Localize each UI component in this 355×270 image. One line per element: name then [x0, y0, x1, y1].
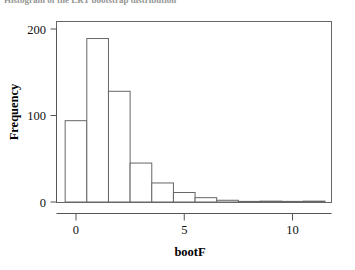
x-axis-ticks: 0510: [73, 214, 299, 238]
histogram-bar: [152, 183, 174, 202]
x-axis-tick-label: 10: [286, 223, 299, 237]
histogram-bar: [87, 39, 109, 202]
y-axis-tick-label: 100: [27, 109, 46, 123]
y-axis-ticks: 0100200: [27, 23, 56, 210]
histogram-bar: [130, 163, 152, 202]
x-axis-tick-label: 0: [73, 223, 79, 237]
y-axis-tick-label: 200: [27, 23, 46, 37]
histogram-bar: [260, 201, 282, 202]
y-axis-title: Frequency: [7, 83, 21, 140]
histogram-bar: [282, 201, 304, 202]
x-axis-title: bootF: [174, 245, 206, 259]
x-axis: 0510: [57, 214, 332, 238]
histogram-bar: [195, 198, 217, 202]
histogram-plot: 0100200 0510 bootF Frequency: [0, 0, 355, 270]
histogram-bar: [173, 192, 195, 202]
histogram-bar: [65, 121, 87, 202]
histogram-bar: [108, 91, 130, 202]
histogram-bar: [217, 200, 239, 202]
y-axis: 0100200: [27, 23, 56, 210]
histogram-bar: [303, 201, 325, 202]
histogram-bar: [238, 201, 260, 202]
histogram-figure: Histogram of the LRT bootstrap distribut…: [0, 0, 355, 270]
x-axis-tick-label: 5: [181, 223, 187, 237]
y-axis-tick-label: 0: [40, 196, 46, 210]
histogram-bars: [65, 39, 325, 202]
